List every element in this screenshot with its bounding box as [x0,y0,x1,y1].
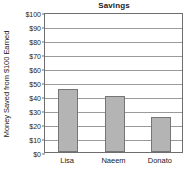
y-tick-label: $50 [29,81,45,88]
y-axis-label: Money Saved from $100 Earned [0,14,12,154]
savings-bar-chart: Savings Money Saved from $100 Earned $0$… [0,0,191,177]
y-tick-label: $100 [25,11,45,18]
y-tick-label: $40 [29,95,45,102]
bars-layer [45,14,182,152]
y-tick-label: $20 [29,123,45,130]
y-tick-label: $30 [29,109,45,116]
bar [151,117,171,152]
bar [58,89,78,152]
y-tick-label: $60 [29,67,45,74]
x-tick-label: Lisa [60,156,74,165]
x-tick-label: Naeem [101,156,125,165]
y-tick-label: $80 [29,39,45,46]
y-tick-label: $10 [29,137,45,144]
chart-title: Savings [44,1,184,10]
plot-area: $0$10$20$30$40$50$60$70$80$90$100 [44,13,183,153]
y-tick-label: $70 [29,53,45,60]
x-axis-labels: LisaNaeemDonato [44,156,183,172]
y-axis-label-text: Money Saved from $100 Earned [2,31,11,138]
x-tick-label: Donato [148,156,172,165]
y-tick-label: $90 [29,25,45,32]
bar [105,96,125,152]
